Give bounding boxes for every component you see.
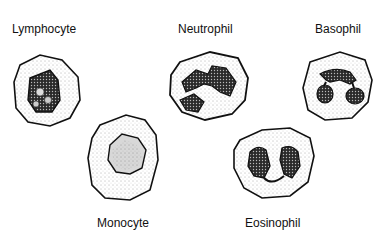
neutrophil-cell — [170, 52, 248, 120]
monocyte-cell — [88, 115, 158, 200]
cells-illustration — [0, 0, 383, 237]
eosinophil-cell — [234, 128, 314, 198]
basophil-cell — [303, 52, 372, 120]
lymphocyte-cell — [14, 55, 80, 126]
